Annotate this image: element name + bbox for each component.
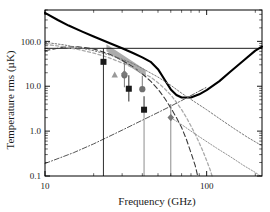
datapoint-black-square xyxy=(141,107,147,113)
x-axis-label: Frequency (GHz) xyxy=(118,195,196,208)
frequency-spectrum-plot: 101000.11.010.0100.0 Frequency (GHz) Tem… xyxy=(0,0,270,212)
y-tick-label: 0.1 xyxy=(30,171,41,181)
y-tick-label: 100.0 xyxy=(21,37,42,47)
datapoint-gray-circle xyxy=(139,86,145,92)
y-tick-label: 10.0 xyxy=(25,81,41,91)
x-tick-label: 10 xyxy=(41,181,51,191)
x-tick-label: 100 xyxy=(200,181,214,191)
datapoint-black-square xyxy=(100,59,106,65)
y-tick-label: 1.0 xyxy=(30,126,42,136)
y-axis-label: Temperature rms (µK) xyxy=(4,50,17,149)
datapoint-black-square xyxy=(126,86,132,92)
chart-container: 101000.11.010.0100.0 Frequency (GHz) Tem… xyxy=(0,0,270,212)
